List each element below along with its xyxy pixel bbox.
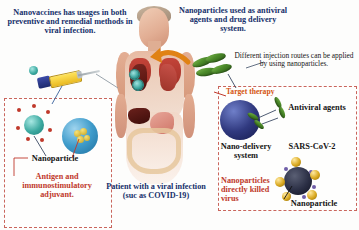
gold-nanoparticle [291,157,301,167]
label-nanoparticle-right: Nanoparticle [283,199,345,208]
adjuvant-core [77,136,84,143]
syringe-illustration [36,62,95,95]
left-arm [115,94,127,138]
virus-spike [312,185,316,189]
lung-virus-particle [130,70,139,79]
liver [128,108,150,124]
antigen-spike [32,104,36,108]
virus-spike [284,167,288,171]
antigen-spike [46,110,50,114]
label-target-therapy: Target therapy [226,88,284,97]
syringe-vial-nanoparticle [29,66,38,75]
sars-cov-2-virus-illustration [278,161,318,201]
label-nano-delivery-system: Nano-delivery system [215,142,277,161]
caption-injection-routes: Different injection routes can be applie… [233,52,355,69]
antigen-spike [26,137,30,141]
adjuvant-core [84,135,90,141]
caption-top-center: Nanoparticles used as antiviral agents a… [178,6,288,34]
antigen-spike [40,138,44,142]
caption-top-left: Nanovaccines has usages in both preventi… [6,8,134,36]
antigen-spike [17,108,21,112]
label-nanoparticle-left: Nanoparticle [23,154,87,163]
label-sars-cov-2: SARS-CoV-2 [280,142,344,151]
label-antigen-adjuvant: Antigen and immunostimulatory adjuvant. [6,172,108,200]
adjuvant-core [80,128,87,135]
intestines [130,132,180,172]
green-capsule [204,52,226,65]
teal-nanoparticle [24,115,44,135]
caption-nanoparticles-killed-virus: Nanoparticles directly killed virus [221,176,283,204]
green-capsule [210,62,232,75]
gold-nanoparticle [310,170,320,180]
right-arm [183,94,195,138]
caption-patient: Patient with a viral infection (suc as C… [104,182,208,200]
antigen-spike [48,128,52,132]
antigen-spike [16,126,20,130]
label-antiviral-agents: Antiviral agents [288,103,346,112]
right-lung [160,64,177,91]
lung-virus-particle [133,80,143,90]
infographic-figure: Nanovaccines has usages in both preventi… [0,0,359,230]
